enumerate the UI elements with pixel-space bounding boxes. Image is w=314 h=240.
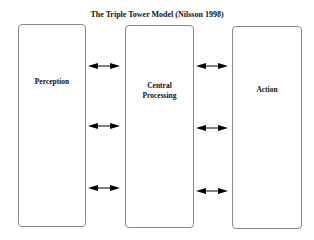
diagram-title: The Triple Tower Model (Nilsson 1998) [0, 10, 314, 19]
tower-label-processing: Processing [126, 91, 193, 101]
bidirectional-arrow-icon [88, 62, 120, 70]
bidirectional-arrow-icon [88, 184, 120, 192]
tower-action: Action [232, 26, 302, 229]
bidirectional-arrow-icon [196, 62, 228, 70]
bidirectional-arrow-icon [196, 187, 228, 195]
bidirectional-arrow-icon [196, 124, 228, 132]
tower-central-processing: Central Processing [125, 25, 194, 228]
tower-perception: Perception [18, 24, 86, 227]
tower-label-perception: Perception [19, 77, 85, 87]
bidirectional-arrow-icon [88, 122, 120, 130]
tower-label-central: Central [126, 81, 193, 91]
tower-label-action: Action [233, 85, 301, 95]
